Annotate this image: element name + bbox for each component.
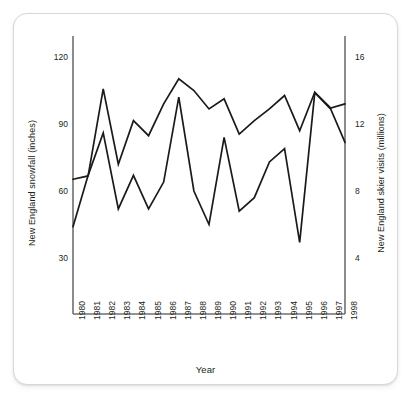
- y-axis-right-tick-16: 16: [355, 52, 381, 62]
- axis-spines: [73, 36, 345, 314]
- y-axis-right-tick-4: 4: [355, 253, 381, 263]
- y-axis-left-title: New England snowfall (inches): [27, 83, 37, 283]
- series-line-snowfall: [73, 93, 345, 243]
- x-axis-tick-1983: 1983: [122, 301, 132, 320]
- y-axis-left-tick-60: 60: [42, 186, 68, 196]
- x-axis-tick-1994: 1994: [289, 301, 299, 320]
- series-line-skier-visits: [73, 79, 345, 180]
- x-axis-tick-1986: 1986: [168, 301, 178, 320]
- x-axis-tick-1991: 1991: [243, 301, 253, 320]
- x-axis-tick-1985: 1985: [153, 301, 163, 320]
- x-axis-tick-1996: 1996: [319, 301, 329, 320]
- x-axis-tick-1992: 1992: [258, 301, 268, 320]
- x-axis-tick-1989: 1989: [213, 301, 223, 320]
- line-chart: New England snowfall (inches) New Englan…: [0, 0, 411, 398]
- x-axis-title: Year: [0, 364, 411, 375]
- x-axis-tick-1997: 1997: [334, 301, 344, 320]
- data-series-group: [73, 79, 345, 243]
- x-axis-tick-1982: 1982: [107, 301, 117, 320]
- y-axis-right-tick-12: 12: [355, 119, 381, 129]
- x-axis-tick-1981: 1981: [92, 301, 102, 320]
- x-axis-tick-1980: 1980: [77, 301, 87, 320]
- x-axis-tick-1993: 1993: [273, 301, 283, 320]
- y-axis-right-tick-8: 8: [355, 186, 381, 196]
- y-axis-left-tick-30: 30: [42, 253, 68, 263]
- x-axis-tick-1987: 1987: [183, 301, 193, 320]
- y-axis-left-tick-120: 120: [42, 52, 68, 62]
- y-axis-left-tick-90: 90: [42, 119, 68, 129]
- x-axis-tick-1984: 1984: [137, 301, 147, 320]
- x-axis-tick-1988: 1988: [198, 301, 208, 320]
- x-axis-tick-1995: 1995: [304, 301, 314, 320]
- x-axis-tick-1998: 1998: [349, 301, 359, 320]
- x-axis-tick-1990: 1990: [228, 301, 238, 320]
- page-root: New England snowfall (inches) New Englan…: [0, 0, 411, 398]
